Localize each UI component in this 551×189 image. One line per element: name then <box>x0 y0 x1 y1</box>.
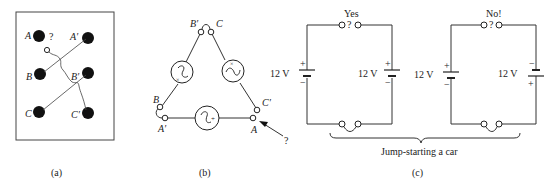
polarity-bottom: − <box>300 77 306 88</box>
brace-label: Jump-starting a car <box>381 146 458 157</box>
label-c-prime: C′ <box>71 109 81 120</box>
label-b: B <box>153 94 159 105</box>
circuit-title: Yes <box>344 8 359 19</box>
brace <box>330 133 520 143</box>
voltage-label: 12 V <box>270 68 290 79</box>
polarity-bottom: + <box>528 78 534 89</box>
polarity-top: + <box>385 58 391 69</box>
caption-c: (c) <box>412 167 423 179</box>
circuit-yes: Yes ? + − + − 12 V <box>299 8 400 132</box>
question-mark: ? <box>49 31 54 42</box>
open-terminal <box>355 22 361 28</box>
terminal <box>339 121 345 127</box>
label-c: C <box>216 18 223 29</box>
terminal-c <box>33 106 45 118</box>
voltage-label: 12 V <box>498 68 518 79</box>
terminal-c-prime <box>82 107 94 119</box>
wire-left-bottom <box>162 84 178 106</box>
polarity-bottom: − <box>444 79 450 90</box>
label-c: C <box>25 108 32 119</box>
wire-c-to-b-prime <box>43 75 86 110</box>
figure: A ? A′ B B′ C C′ (a) × × + <box>0 0 551 189</box>
open-terminal <box>339 22 345 28</box>
terminal <box>481 121 487 127</box>
label-c-prime: C′ <box>262 97 272 108</box>
terminal-a <box>250 115 256 121</box>
polarity-top: + <box>444 60 450 71</box>
terminal-b <box>34 68 46 80</box>
jumper-top <box>202 25 210 30</box>
wire-top-left <box>186 32 201 62</box>
caption-a: (a) <box>51 167 62 179</box>
label-b: B <box>26 71 32 82</box>
polarity-mark: × <box>230 61 233 67</box>
voltage-label: 12 V <box>414 69 434 80</box>
terminal-c <box>208 29 214 35</box>
generator-ac-icon <box>195 106 219 130</box>
terminal-a <box>33 30 45 42</box>
wire-right-bottom <box>240 83 256 108</box>
arrow-line <box>264 124 283 136</box>
terminal <box>496 121 502 127</box>
terminal <box>355 121 361 127</box>
jumper-cable <box>344 127 356 132</box>
panel-b: × × + B′ C B C′ A′ A ? (b) <box>153 18 289 179</box>
terminal-b <box>157 104 163 110</box>
polarity-mark: × <box>176 77 179 83</box>
circuit-no: No! ? + − 12 V − + 12 V <box>414 8 544 132</box>
open-terminal <box>496 22 502 28</box>
polarity-mark: + <box>211 115 215 123</box>
caption-b: (b) <box>199 167 211 179</box>
jumper-cable <box>486 127 497 132</box>
terminal-a-prime <box>82 32 94 44</box>
polarity-bottom: − <box>385 77 391 88</box>
polarity-top: − <box>529 58 535 69</box>
wire-b-to-a-prime <box>44 39 86 72</box>
label-a: A <box>24 30 32 41</box>
wire-open-to-c-prime <box>49 52 86 110</box>
terminal-a-prime <box>162 115 168 121</box>
label-a-prime: A′ <box>157 123 167 134</box>
label-a-prime: A′ <box>69 31 79 42</box>
panel-a: A ? A′ B B′ C C′ (a) <box>16 12 114 179</box>
terminal-c-prime <box>254 107 260 113</box>
open-terminal <box>44 47 49 52</box>
polarity-top: + <box>300 58 306 69</box>
terminal-b-prime <box>198 29 204 35</box>
label-b-prime: B′ <box>71 71 80 82</box>
label-b-prime: B′ <box>190 18 199 29</box>
question-mark: ? <box>284 135 289 146</box>
panel-c: Yes ? + − + − 12 V <box>270 8 544 179</box>
circuit-title: No! <box>486 8 502 19</box>
question-mark: ? <box>347 19 352 30</box>
wire-top-right <box>211 32 225 60</box>
open-terminal <box>481 22 487 28</box>
question-mark: ? <box>489 19 494 30</box>
voltage-label: 12 V <box>358 68 378 79</box>
label-a: A <box>250 124 258 135</box>
